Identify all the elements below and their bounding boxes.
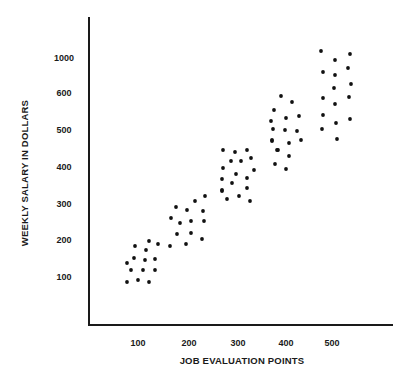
data-point xyxy=(347,95,351,99)
data-point xyxy=(189,231,193,235)
data-point xyxy=(230,181,234,185)
data-point xyxy=(297,114,301,118)
data-point xyxy=(147,280,151,284)
data-point xyxy=(319,49,323,53)
y-tick-label: 400 xyxy=(56,162,71,172)
data-point xyxy=(245,186,249,190)
data-point xyxy=(248,199,252,203)
data-point xyxy=(201,209,205,213)
data-point xyxy=(284,167,288,171)
data-point xyxy=(321,96,325,100)
x-tick-label: 100 xyxy=(130,338,145,348)
data-point xyxy=(168,244,172,248)
data-point xyxy=(239,159,243,163)
x-tick-label: 500 xyxy=(324,338,339,348)
data-point xyxy=(287,141,291,145)
data-point xyxy=(290,100,294,104)
data-point xyxy=(270,138,274,142)
y-tick-label: 100 xyxy=(56,272,71,282)
data-point xyxy=(178,221,182,225)
data-point xyxy=(156,242,160,246)
data-point xyxy=(284,116,288,120)
axes xyxy=(88,17,393,326)
x-axis-title: JOB EVALUATION POINTS xyxy=(180,355,305,366)
data-point xyxy=(348,117,352,121)
y-tick-label: 1000 xyxy=(54,53,74,63)
y-tick-labels: 1002003004005006001000 xyxy=(54,53,74,282)
y-tick-label: 500 xyxy=(56,125,71,135)
y-axis-title: WEEKLY SALARY IN DOLLARS xyxy=(19,100,30,246)
data-point xyxy=(271,127,275,131)
data-point xyxy=(279,94,283,98)
data-point xyxy=(193,199,197,203)
data-point xyxy=(153,257,157,261)
data-point xyxy=(202,219,206,223)
data-point xyxy=(221,166,225,170)
data-point xyxy=(125,280,129,284)
data-point xyxy=(175,232,179,236)
data-point xyxy=(335,137,339,141)
data-point xyxy=(272,108,276,112)
data-point xyxy=(144,248,148,252)
data-point xyxy=(203,194,207,198)
data-point xyxy=(184,242,188,246)
data-point xyxy=(287,154,291,158)
data-point xyxy=(169,216,173,220)
data-point xyxy=(200,237,204,241)
data-point xyxy=(132,256,136,260)
data-point xyxy=(133,244,137,248)
data-point xyxy=(220,177,224,181)
x-tick-labels: 100200300400500 xyxy=(130,338,339,348)
data-point xyxy=(174,205,178,209)
data-point xyxy=(320,127,324,131)
data-point xyxy=(147,239,151,243)
data-point xyxy=(220,188,224,192)
data-point xyxy=(273,162,277,166)
data-point xyxy=(332,86,336,90)
x-tick-label: 400 xyxy=(278,338,293,348)
data-point xyxy=(334,121,338,125)
data-point xyxy=(136,278,140,282)
data-point xyxy=(141,268,145,272)
data-point xyxy=(125,261,129,265)
data-points xyxy=(125,49,353,284)
data-point xyxy=(252,168,256,172)
data-point xyxy=(333,73,337,77)
data-point xyxy=(229,159,233,163)
data-point xyxy=(346,66,350,70)
data-point xyxy=(349,82,353,86)
data-point xyxy=(225,197,229,201)
data-point xyxy=(234,172,238,176)
data-point xyxy=(143,258,147,262)
data-point xyxy=(153,268,157,272)
data-point xyxy=(348,52,352,56)
data-point xyxy=(221,148,225,152)
data-point xyxy=(249,156,253,160)
data-point xyxy=(129,268,133,272)
data-point xyxy=(321,70,325,74)
data-point xyxy=(333,102,337,106)
data-point xyxy=(245,148,249,152)
data-point xyxy=(275,148,279,152)
data-point xyxy=(321,113,325,117)
data-point xyxy=(299,138,303,142)
data-point xyxy=(245,176,249,180)
data-point xyxy=(237,194,241,198)
x-tick-label: 200 xyxy=(181,338,196,348)
y-tick-label: 300 xyxy=(56,199,71,209)
data-point xyxy=(283,128,287,132)
data-point xyxy=(233,150,237,154)
data-point xyxy=(333,58,337,62)
scatter-chart: 1002003004005006001000 100200300400500 J… xyxy=(0,0,418,382)
data-point xyxy=(189,219,193,223)
data-point xyxy=(295,129,299,133)
x-tick-label: 300 xyxy=(230,338,245,348)
y-tick-label: 600 xyxy=(56,88,71,98)
data-point xyxy=(269,119,273,123)
y-tick-label: 200 xyxy=(56,235,71,245)
data-point xyxy=(185,208,189,212)
